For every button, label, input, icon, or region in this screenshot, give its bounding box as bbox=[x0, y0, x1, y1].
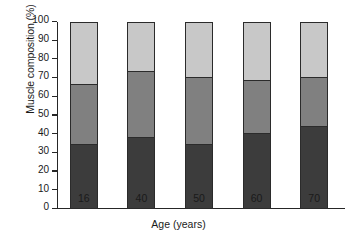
plot-area: 0102030405060708090100 bbox=[57, 22, 345, 209]
y-axis-tick-label: 40 bbox=[38, 127, 49, 139]
bar-segment-top-segment bbox=[128, 23, 154, 71]
y-axis-tick-label: 90 bbox=[38, 33, 49, 45]
bar-segment-middle-segment bbox=[186, 77, 212, 145]
y-axis-tick: 90 bbox=[52, 40, 57, 41]
x-axis-title: Age (years) bbox=[0, 218, 357, 230]
y-axis-tick-label: 100 bbox=[32, 14, 49, 26]
y-axis-tick: 40 bbox=[52, 133, 57, 134]
y-axis-tick-label: 50 bbox=[38, 108, 49, 120]
y-axis-line bbox=[57, 22, 58, 209]
y-axis-tick: 60 bbox=[52, 96, 57, 97]
y-axis-tick: 20 bbox=[52, 170, 57, 171]
y-axis-tick-label: 60 bbox=[38, 89, 49, 101]
x-axis-label-50: 50 bbox=[169, 192, 229, 204]
bar-40 bbox=[127, 22, 155, 209]
y-axis-tick: 0 bbox=[52, 208, 57, 209]
bar-segment-middle-segment bbox=[244, 80, 270, 134]
bar-segment-top-segment bbox=[186, 23, 212, 77]
y-axis-tick-label: 0 bbox=[43, 201, 49, 213]
y-axis-tick-label: 70 bbox=[38, 70, 49, 82]
bar-segment-top-segment bbox=[244, 23, 270, 80]
y-axis-tick: 70 bbox=[52, 77, 57, 78]
bar-segment-top-segment bbox=[301, 23, 327, 77]
x-axis-label-40: 40 bbox=[111, 192, 171, 204]
x-axis-label-16: 16 bbox=[54, 192, 114, 204]
x-axis-label-70: 70 bbox=[284, 192, 344, 204]
y-axis-tick: 80 bbox=[52, 58, 57, 59]
bar-70 bbox=[300, 22, 328, 209]
y-axis-tick: 30 bbox=[52, 152, 57, 153]
y-axis-tick: 100 bbox=[52, 21, 57, 22]
y-axis-tick-label: 80 bbox=[38, 52, 49, 64]
bar-50 bbox=[185, 22, 213, 209]
stacked-bar-chart: Muscle composition (%) 01020304050607080… bbox=[0, 0, 357, 245]
y-axis-tick-label: 20 bbox=[38, 164, 49, 176]
bar-segment-top-segment bbox=[71, 23, 97, 84]
bar-segment-middle-segment bbox=[301, 77, 327, 127]
bar-segment-middle-segment bbox=[71, 84, 97, 145]
bar-segment-middle-segment bbox=[128, 71, 154, 138]
x-axis-label-60: 60 bbox=[227, 192, 287, 204]
y-axis-tick-label: 30 bbox=[38, 145, 49, 157]
y-axis-tick: 10 bbox=[52, 189, 57, 190]
bar-60 bbox=[243, 22, 271, 209]
bar-16 bbox=[70, 22, 98, 209]
y-axis-tick: 50 bbox=[52, 114, 57, 115]
y-axis-tick-label: 10 bbox=[38, 183, 49, 195]
